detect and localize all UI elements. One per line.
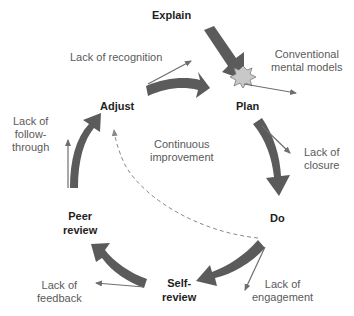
barrier-engagement: Lack of engagement — [252, 278, 313, 304]
continuous-improvement-label: Continuous improvement — [150, 138, 214, 164]
plan-to-do-arrow — [253, 118, 290, 196]
stage-adjust: Adjust — [100, 99, 134, 113]
barrier-follow-through: Lack of follow- through — [12, 115, 49, 154]
barrier-feedback-line2: feedback — [37, 292, 82, 305]
stage-peer-review-line2: review — [63, 223, 97, 237]
barrier-followthrough-line3: through — [12, 141, 49, 154]
barrier-feedback: Lack of feedback — [37, 279, 82, 305]
stage-do: Do — [270, 211, 285, 225]
continuous-improvement-line2: improvement — [150, 151, 214, 164]
cycle-diagram: Explain Plan Do Self- review Peer review… — [0, 0, 354, 316]
stage-explain: Explain — [152, 8, 191, 22]
stage-plan: Plan — [236, 99, 259, 113]
barrier-closure-line2: closure — [304, 159, 339, 172]
barrier-feedback-line1: Lack of — [37, 279, 82, 292]
self-review-to-peer-review-arrow — [91, 243, 147, 288]
barrier-recognition: Lack of recognition — [70, 51, 162, 64]
barrier-followthrough-line1: Lack of — [12, 115, 49, 128]
adjust-to-plan-arrow — [146, 72, 210, 98]
barrier-followthrough-line2: follow- — [12, 128, 49, 141]
barrier-engagement-line2: engagement — [252, 291, 313, 304]
stage-self-review-line2: review — [162, 290, 196, 304]
continuous-improvement-line1: Continuous — [150, 138, 214, 151]
stage-self-review-line1: Self- — [162, 276, 196, 290]
barrier-closure-line1: Lack of — [304, 146, 339, 159]
barrier-closure: Lack of closure — [304, 146, 339, 172]
stage-peer-review: Peer review — [63, 209, 97, 237]
stage-self-review: Self- review — [162, 276, 196, 304]
conventional-arrow — [244, 84, 296, 93]
barrier-conventional-mental-models: Conventional mental models — [271, 48, 343, 74]
barrier-conventional-line1: Conventional — [271, 48, 343, 61]
barrier-conventional-line2: mental models — [271, 61, 343, 74]
barrier-engagement-line1: Lack of — [252, 278, 313, 291]
peer-review-to-adjust-arrow — [70, 113, 101, 188]
stage-peer-review-line1: Peer — [63, 209, 97, 223]
